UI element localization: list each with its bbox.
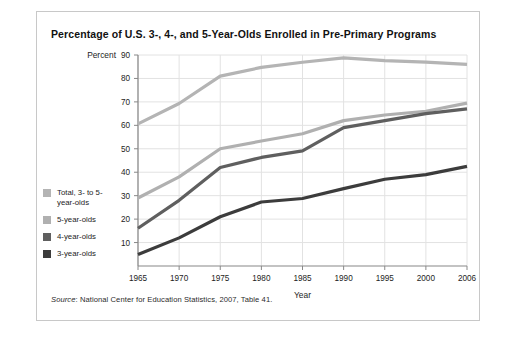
legend-swatch-total: [43, 189, 51, 197]
x-tick-label: 1985: [293, 274, 312, 283]
chart-axes: [134, 55, 467, 270]
legend-swatch-4-year-olds: [43, 233, 51, 241]
x-tick-label: 2006: [458, 274, 477, 283]
y-axis-label: Percent: [87, 50, 117, 60]
y-tick-label: 40: [121, 168, 131, 177]
chart-tick-labels: 1020304050607080901965197019751980198519…: [121, 51, 477, 283]
source-note: Source: National Center for Education St…: [51, 295, 272, 304]
figure-card: Percentage of U.S. 3-, 4-, and 5-Year-Ol…: [36, 11, 480, 321]
legend-item-4-year-olds: 4-year-olds: [43, 232, 147, 242]
x-tick-label: 1980: [252, 274, 271, 283]
x-axis-label: Year: [294, 290, 311, 300]
legend-item-3-year-olds: 3-year-olds: [43, 249, 147, 259]
legend-label-4-year-olds: 4-year-olds: [57, 232, 96, 242]
chart-legend: Total, 3- to 5- year-olds 5-year-olds 4-…: [43, 188, 147, 266]
legend-swatch-3-year-olds: [43, 250, 51, 258]
x-tick-label: 1995: [376, 274, 395, 283]
y-tick-label: 70: [121, 98, 131, 107]
legend-item-5-year-olds: 5-year-olds: [43, 215, 147, 225]
y-tick-label: 50: [121, 145, 131, 154]
legend-item-total: Total, 3- to 5- year-olds: [43, 188, 147, 208]
legend-label-5-year-olds: 5-year-olds: [57, 215, 96, 225]
source-label: Source: [51, 295, 76, 304]
y-tick-label: 80: [121, 74, 131, 83]
legend-label-3-year-olds: 3-year-olds: [57, 249, 96, 259]
x-tick-label: 2000: [417, 274, 436, 283]
x-tick-label: 1970: [170, 274, 189, 283]
y-tick-label: 60: [121, 121, 131, 130]
legend-swatch-5-year-olds: [43, 216, 51, 224]
x-tick-label: 1975: [211, 274, 230, 283]
x-tick-label: 1965: [129, 274, 148, 283]
line-chart: 1020304050607080901965197019751980198519…: [37, 12, 481, 322]
y-tick-label: 90: [121, 51, 131, 60]
source-text: : National Center for Education Statisti…: [76, 295, 273, 304]
x-tick-label: 1990: [335, 274, 354, 283]
legend-label-total: Total, 3- to 5- year-olds: [57, 188, 103, 208]
